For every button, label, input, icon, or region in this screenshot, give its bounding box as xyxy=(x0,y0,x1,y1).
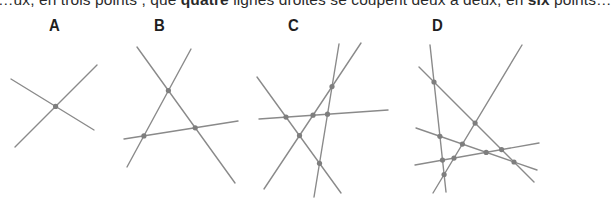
straight-line xyxy=(416,128,537,170)
intersection-point xyxy=(310,113,315,118)
intersection-point xyxy=(484,150,489,155)
straight-line xyxy=(415,143,539,165)
intersection-point xyxy=(451,156,456,161)
intersection-point xyxy=(193,125,198,130)
intersection-point xyxy=(440,158,445,163)
figure-a-two-lines xyxy=(11,65,97,147)
figure-b-three-lines xyxy=(124,47,238,183)
intersection-point xyxy=(166,88,171,93)
intersection-point xyxy=(317,161,322,166)
intersection-point xyxy=(53,104,58,109)
intersection-point xyxy=(473,121,478,126)
intersection-point xyxy=(442,172,447,177)
intersection-point xyxy=(325,112,330,117)
straight-line xyxy=(259,110,388,119)
intersection-point xyxy=(460,142,465,147)
intersection-point xyxy=(297,133,302,138)
figure-d-five-lines xyxy=(415,45,539,193)
straight-line xyxy=(433,45,522,193)
intersection-point xyxy=(329,84,334,89)
figure-c-four-lines xyxy=(257,43,388,197)
intersection-point xyxy=(283,115,288,120)
straight-line xyxy=(11,79,94,130)
straight-line xyxy=(430,45,446,192)
intersection-point xyxy=(431,79,436,84)
caption-part: points… xyxy=(550,0,612,8)
intersection-point xyxy=(141,133,146,138)
intersection-point xyxy=(437,134,442,139)
straight-line xyxy=(124,121,238,139)
intersection-point xyxy=(499,147,504,152)
intersection-point xyxy=(511,159,516,164)
straight-line xyxy=(137,47,235,183)
